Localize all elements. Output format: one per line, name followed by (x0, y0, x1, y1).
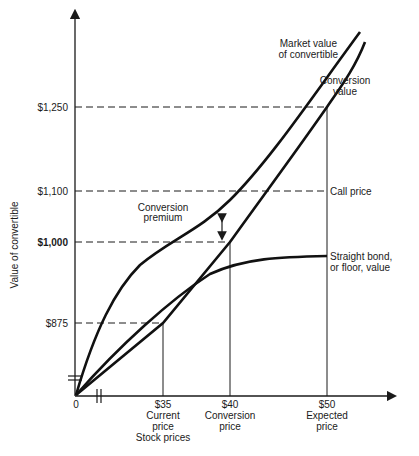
market-value-label-2: of convertible (279, 49, 339, 60)
straight-bond-label-2: or floor, value (330, 262, 390, 273)
straight-bond-label-1: Straight bond, (330, 251, 392, 262)
market-value-curve (76, 32, 360, 395)
conversion-value-label-1: Conversion (320, 75, 371, 86)
x-tick-35: $35 (155, 399, 172, 410)
y-tick-1100: $1,100 (37, 186, 68, 197)
conversion-value-curve (76, 42, 365, 395)
x-tick-40-sub1: Conversion (205, 410, 256, 421)
x-tick-50-sub1: Expected (306, 410, 348, 421)
x-tick-40-sub2: price (219, 421, 241, 432)
x-tick-0: 0 (73, 399, 79, 410)
x-tick-50: $50 (319, 399, 336, 410)
conversion-premium-label-2: premium (144, 212, 183, 223)
convertible-value-chart: $1,250 $1,100 $1,000 $875 Value of conve… (0, 0, 419, 456)
x-tick-50-sub2: price (316, 421, 338, 432)
market-value-label-1: Market value (280, 38, 338, 49)
y-tick-1250: $1,250 (37, 102, 68, 113)
x-tick-35-sub2: price (152, 421, 174, 432)
x-tick-35-sub1: Current (146, 410, 180, 421)
y-axis-label: Value of convertible (9, 201, 20, 289)
call-price-label: Call price (330, 186, 372, 197)
x-axis-label: Stock prices (136, 432, 190, 443)
y-tick-875: $875 (46, 318, 69, 329)
conversion-value-label-2: value (333, 86, 357, 97)
x-tick-40: $40 (222, 399, 239, 410)
y-tick-1000: $1,000 (37, 237, 68, 248)
